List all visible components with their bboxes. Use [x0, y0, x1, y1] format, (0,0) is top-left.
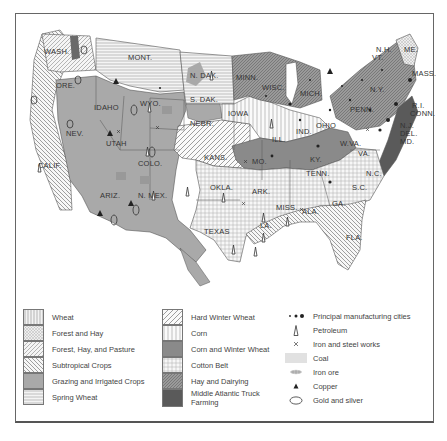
legend-item-grazing: Grazing and Irrigated Crops — [23, 373, 145, 389]
subtropical-swatch — [23, 357, 44, 373]
legend-item-manufacturing: Principal manufacturing cities — [285, 310, 411, 322]
label-md: MD. — [400, 137, 414, 146]
label-wisc: WISC. — [262, 83, 285, 92]
label-wash: WASH. — [44, 47, 69, 56]
label-conn: CONN. — [410, 109, 435, 118]
label-s_dak: S. DAK. — [190, 95, 218, 104]
legend-item-forest-hay-pasture: Forest, Hay, and Pasture — [23, 341, 135, 357]
legend-item-cotton-belt: Cotton Belt — [162, 357, 228, 373]
legend-item-iron-steel: Iron and steel works — [285, 338, 380, 350]
hard-winter-wheat-swatch — [162, 309, 183, 325]
legend-item-wheat: Wheat — [23, 309, 74, 325]
label-s-c: S.C. — [352, 183, 367, 192]
corn-winter-wheat-swatch — [162, 341, 183, 357]
legend-item-iron-ore: Iron ore — [285, 366, 339, 378]
label-ky: KY. — [310, 155, 322, 164]
forest-hay-swatch — [23, 325, 44, 341]
hay-dairying-swatch — [162, 373, 183, 389]
legend-item-hard-winter-wheat: Hard Winter Wheat — [162, 309, 255, 325]
ellipse-icon — [285, 394, 307, 406]
label-ind: IND. — [296, 127, 312, 136]
label-ill: ILL. — [272, 135, 285, 144]
label-ariz: ARIZ. — [100, 191, 120, 200]
grazing-swatch — [23, 373, 44, 389]
label-va: VA. — [358, 149, 370, 158]
label-me: ME. — [404, 45, 418, 54]
label-okla: OKLA. — [210, 183, 233, 192]
spring-wheat-swatch — [23, 389, 44, 405]
label-ala: ALA. — [302, 207, 319, 216]
label-minn: MINN. — [236, 73, 258, 82]
legend-item-truck-farming: Middle Atlantic Truck Farming — [162, 389, 260, 407]
legend-item-coal: Coal — [285, 352, 328, 364]
label-tenn: TENN. — [306, 169, 330, 178]
forest-hay-pasture-swatch — [23, 341, 44, 357]
oil-derrick-icon — [285, 324, 307, 336]
coal-lines-icon — [285, 352, 307, 364]
label-colo: COLO. — [138, 159, 162, 168]
label-nev: NEV. — [66, 129, 84, 138]
us-agriculture-map: WASH. ORE. CALIF. IDAHO NEV. MONT. WYO. … — [0, 0, 447, 300]
label-ga: GA. — [332, 199, 346, 208]
label-mich: MICH. — [300, 89, 322, 98]
cotton-belt-swatch — [162, 357, 183, 373]
iron-ore-icon — [285, 366, 307, 378]
label-ore: ORE. — [56, 81, 75, 90]
label-mo: MO. — [252, 157, 267, 166]
label-iowa: IOWA — [228, 109, 249, 118]
label-texas: TEXAS — [204, 227, 230, 236]
label-nebr: NEBR. — [190, 119, 214, 128]
label-mont: MONT. — [128, 53, 152, 62]
label-miss: MISS. — [276, 203, 297, 212]
wheat-swatch — [23, 309, 44, 325]
label-idaho: IDAHO — [94, 103, 119, 112]
label-fla: FLA. — [346, 233, 363, 242]
label-ohio: OHIO — [316, 121, 336, 130]
label-vt: VT. — [372, 53, 383, 62]
label-mass: MASS. — [412, 69, 436, 78]
label-kans: KANS. — [204, 153, 228, 162]
label-w-va: W.VA. — [340, 139, 361, 148]
legend-item-corn-winter-wheat: Corn and Winter Wheat — [162, 341, 269, 357]
legend-item-spring-wheat: Spring Wheat — [23, 389, 97, 405]
label-utah: UTAH — [106, 139, 127, 148]
cross-x-icon — [285, 338, 307, 350]
triangle-icon — [285, 380, 307, 392]
label-n-dak: N. DAK. — [190, 71, 219, 80]
legend-item-copper: Copper — [285, 380, 338, 392]
label-ark: ARK. — [252, 187, 270, 196]
legend-item-corn: Corn — [162, 325, 207, 341]
truck-farming-swatch — [162, 389, 183, 407]
corn-swatch — [162, 325, 183, 341]
dots-icon — [285, 310, 307, 322]
legend-item-hay-dairying: Hay and Dairying — [162, 373, 249, 389]
legend-item-forest-hay: Forest and Hay — [23, 325, 103, 341]
legend-item-subtropical: Subtropical Crops — [23, 357, 112, 373]
legend-item-gold-silver: Gold and silver — [285, 394, 363, 406]
label-calif: CALIF. — [38, 161, 62, 170]
label-n-c: N.C. — [366, 169, 382, 178]
legend-item-petroleum: Petroleum — [285, 324, 347, 336]
label-n-y: N.Y. — [370, 85, 384, 94]
